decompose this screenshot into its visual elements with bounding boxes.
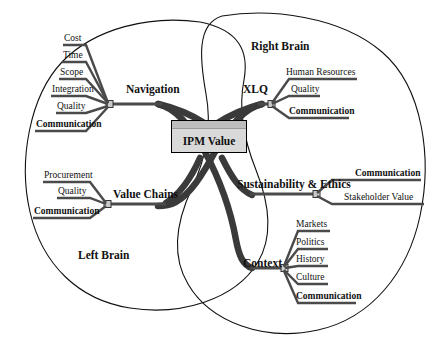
- ipm-value-label: IPM Value: [172, 129, 246, 153]
- branch-label-value-chains[interactable]: Value Chains: [113, 189, 178, 201]
- twig-label-context-politics[interactable]: Politics: [296, 238, 325, 248]
- twig-label-xlq-communication[interactable]: Communication: [289, 107, 354, 117]
- twig-label-navigation-cost[interactable]: Cost: [64, 34, 81, 44]
- region-label-left-brain: Left Brain: [78, 250, 129, 262]
- twig-label-value-chains-quality[interactable]: Quality: [58, 187, 87, 197]
- branch-label-xlq[interactable]: XLQ: [243, 84, 268, 96]
- branch-label-context[interactable]: Context: [243, 258, 282, 270]
- twig-label-context-history[interactable]: History: [296, 255, 325, 265]
- twig-label-sustainability-stakeholder-value[interactable]: Stakeholder Value: [344, 193, 413, 203]
- diagram-canvas: IPM Value Right Brain Left Brain Navigat…: [0, 0, 440, 353]
- twig-label-context-markets[interactable]: Markets: [296, 220, 327, 230]
- twig-label-xlq-human-resources[interactable]: Human Resources: [286, 68, 355, 78]
- twig-label-context-culture[interactable]: Culture: [296, 273, 325, 283]
- value-chains-twig-quality: [57, 198, 106, 204]
- twig-label-navigation-quality[interactable]: Quality: [57, 102, 86, 112]
- twig-label-navigation-communication[interactable]: Communication: [36, 120, 101, 130]
- ipm-value-box-cap: [172, 121, 246, 129]
- twig-label-context-communication[interactable]: Communication: [296, 292, 361, 302]
- twig-label-navigation-integration[interactable]: Integration: [52, 85, 94, 95]
- branch-label-sustainability-ethics[interactable]: Sustainability & Ethics: [152, 179, 351, 191]
- left-brain-outline: [25, 20, 267, 310]
- twig-label-value-chains-communication[interactable]: Communication: [34, 207, 99, 217]
- twig-label-navigation-scope[interactable]: Scope: [60, 68, 83, 78]
- twig-label-sustainability-communication[interactable]: Communication: [355, 169, 420, 179]
- branch-label-navigation[interactable]: Navigation: [126, 84, 180, 96]
- xlq-twig-quality: [272, 96, 320, 104]
- twig-label-navigation-time[interactable]: Time: [63, 51, 83, 61]
- region-label-right-brain: Right Brain: [251, 41, 309, 53]
- context-twig-history: [285, 266, 328, 268]
- ipm-value-box[interactable]: IPM Value: [171, 120, 247, 153]
- twig-label-xlq-quality[interactable]: Quality: [291, 85, 320, 95]
- twig-label-value-chains-procurement[interactable]: Procurement: [44, 171, 93, 181]
